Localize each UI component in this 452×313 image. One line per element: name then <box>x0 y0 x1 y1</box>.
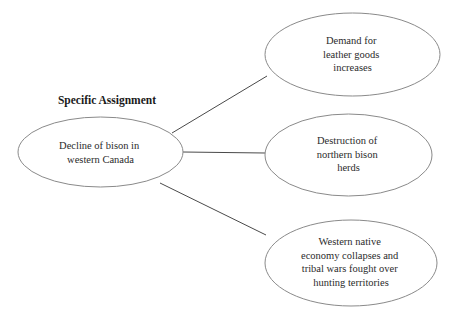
node-destruction-herds-line-1: Destruction of <box>317 135 378 146</box>
node-demand-leather-line-1: Demand for <box>326 35 377 46</box>
connector-root-to-destruction-herds <box>183 152 265 153</box>
node-destruction-herds-line-2: northern bison <box>317 149 379 160</box>
connector-root-to-economy-collapse <box>160 183 266 235</box>
connector-root-to-demand-leather <box>172 76 267 133</box>
node-economy-collapse-line-1: Western native <box>318 236 381 247</box>
node-root[interactable]: Decline of bison in western Canada <box>18 117 183 187</box>
node-economy-collapse-line-3: tribal wars fought over <box>302 263 398 274</box>
node-destruction-herds-line-3: herds <box>337 162 360 173</box>
node-demand-leather[interactable]: Demand for leather goods increases <box>265 13 440 96</box>
node-destruction-herds[interactable]: Destruction of northern bison herds <box>265 114 432 196</box>
node-root-label-line-1: Decline of bison in <box>59 140 140 151</box>
concept-map-diagram: Specific Assignment Decline of bison in … <box>0 0 452 313</box>
node-root-label-line-2: western Canada <box>67 154 134 165</box>
node-demand-leather-line-3: increases <box>333 62 371 73</box>
node-economy-collapse[interactable]: Western native economy collapses and tri… <box>265 220 437 306</box>
node-root-ellipse <box>18 117 183 187</box>
node-demand-leather-line-2: leather goods <box>323 49 379 60</box>
section-heading: Specific Assignment <box>58 94 156 107</box>
node-economy-collapse-line-4: hunting territories <box>313 277 389 288</box>
node-economy-collapse-line-2: economy collapses and <box>301 250 399 261</box>
